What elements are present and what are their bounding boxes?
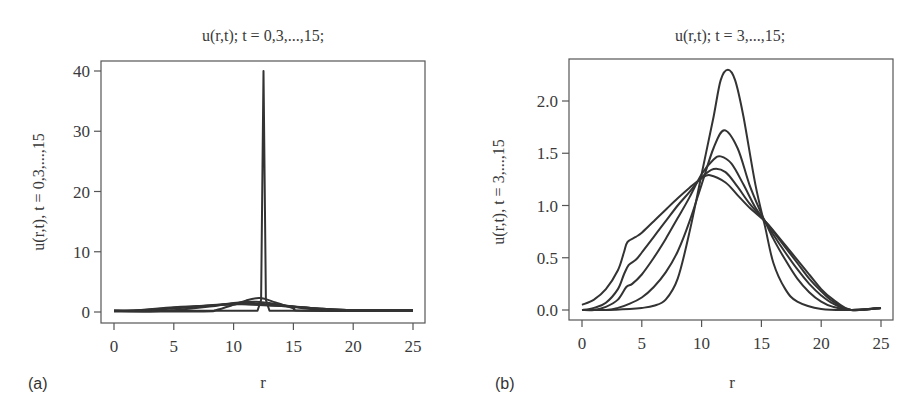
y-tick-label: 10 <box>73 243 90 262</box>
x-tick-label: 10 <box>225 337 242 356</box>
x-tick-label: 25 <box>405 337 422 356</box>
panel-b: u(r,t); t = 3,...,15; 0.00.51.01.52.0 05… <box>460 0 919 415</box>
x-tick-label: 0 <box>110 337 119 356</box>
panel-a: u(r,t); t = 0,3,...,15; 010203040 051015… <box>0 0 459 415</box>
panel-a-letter: (a) <box>28 375 48 393</box>
chart-b-yaxis: 0.00.51.01.52.0 <box>537 92 569 320</box>
panel-b-letter: (b) <box>495 375 515 393</box>
y-tick-label: 0 <box>82 303 91 322</box>
y-tick-label: 40 <box>73 62 90 81</box>
chart-a-title: u(r,t); t = 0,3,...,15; <box>202 27 324 45</box>
y-tick-label: 2.0 <box>537 92 558 111</box>
x-tick-label: 25 <box>873 334 890 353</box>
series-line <box>582 175 881 310</box>
chart-a-yaxis: 010203040 <box>73 62 101 322</box>
y-tick-label: 20 <box>73 183 90 202</box>
x-tick-label: 15 <box>285 337 302 356</box>
chart-a-ylabel: u(r,t), t = 0,3,...,15 <box>30 133 48 250</box>
y-tick-label: 1.5 <box>537 144 558 163</box>
x-tick-label: 0 <box>578 334 587 353</box>
chart-b-ylabel: u(r,t), t = 3,...,15 <box>490 139 508 244</box>
series-line <box>582 169 881 311</box>
series-line <box>582 70 881 310</box>
chart-a-xaxis: 0510152025 <box>110 323 422 356</box>
x-tick-label: 5 <box>170 337 179 356</box>
chart-b-lines <box>582 70 881 311</box>
chart-a-svg: u(r,t); t = 0,3,...,15; 010203040 051015… <box>0 0 459 415</box>
chart-b-title: u(r,t); t = 3,...,15; <box>675 27 785 45</box>
chart-b-xaxis: 0510152025 <box>578 320 890 353</box>
series-line <box>582 130 881 310</box>
y-tick-label: 1.0 <box>537 197 558 216</box>
y-tick-label: 0.5 <box>537 249 558 268</box>
y-tick-label: 0.0 <box>537 301 558 320</box>
x-tick-label: 20 <box>813 334 830 353</box>
x-tick-label: 10 <box>693 334 710 353</box>
x-tick-label: 15 <box>753 334 770 353</box>
chart-b-frame <box>569 59 893 320</box>
x-tick-label: 5 <box>638 334 647 353</box>
chart-a-xlabel: r <box>260 373 266 392</box>
x-tick-label: 20 <box>345 337 362 356</box>
chart-b-xlabel: r <box>729 373 735 392</box>
y-tick-label: 30 <box>73 122 90 141</box>
chart-b-svg: u(r,t); t = 3,...,15; 0.00.51.01.52.0 05… <box>460 0 919 415</box>
chart-a-lines <box>114 71 413 311</box>
series-line <box>114 71 413 311</box>
